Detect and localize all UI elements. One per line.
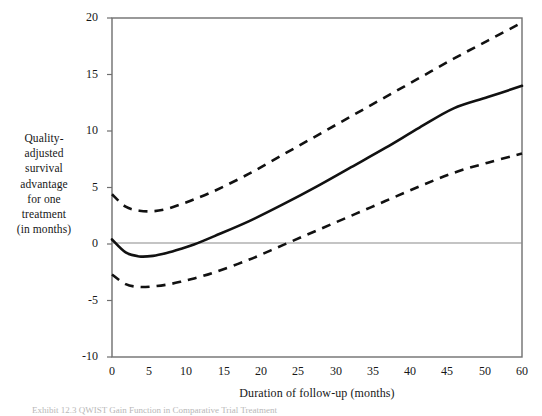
figure-caption: Exhibit 12.3 QWIST Gain Function in Comp…: [32, 405, 512, 416]
x-tick-label: 20: [248, 364, 274, 379]
x-tick-label: 35: [360, 364, 386, 379]
y-tick-label: -5: [72, 293, 98, 308]
x-tick-label: 15: [211, 364, 237, 379]
y-axis-title-line: survival: [2, 161, 86, 176]
x-tick-label: 40: [397, 364, 423, 379]
y-tick-label: 10: [72, 123, 98, 138]
y-axis-title-line: adjusted: [2, 146, 86, 161]
x-tick-label: 0: [99, 364, 125, 379]
x-tick-label: 10: [173, 364, 199, 379]
x-tick-label: 25: [285, 364, 311, 379]
y-tick-label: 15: [72, 67, 98, 82]
x-tick-label: 45: [434, 364, 460, 379]
x-tick-label: 5: [136, 364, 162, 379]
figure-container: Quality- adjusted survival advantage for…: [0, 0, 542, 416]
axis-tick-marks: [107, 18, 112, 357]
y-tick-label: 20: [72, 10, 98, 25]
x-tick-label: 30: [323, 364, 349, 379]
x-axis-title: Duration of follow-up (months): [112, 386, 522, 401]
y-tick-label: 0: [72, 236, 98, 251]
y-tick-label: -10: [72, 349, 98, 364]
x-tick-label: 60: [509, 364, 535, 379]
y-axis-title-line: treatment: [2, 207, 86, 222]
x-tick-label: 50: [472, 364, 498, 379]
y-tick-label: 5: [72, 180, 98, 195]
